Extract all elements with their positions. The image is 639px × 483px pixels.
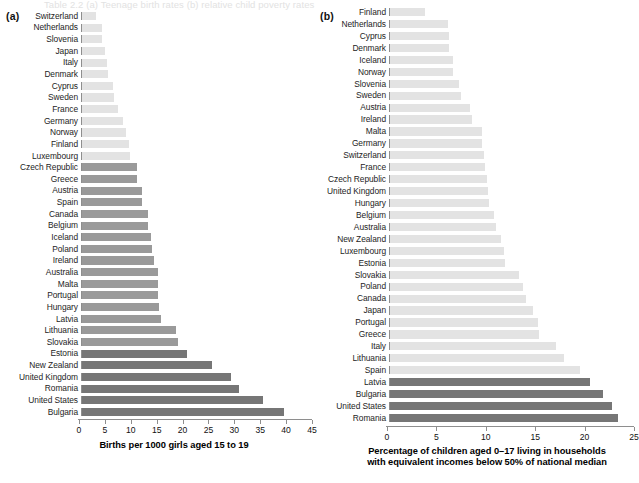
bar [82,373,231,381]
bar-row: Australia [318,223,634,231]
bar-row: Switzerland [0,12,312,20]
category-label: Germany [0,117,81,125]
x-axis: 051015202530354045 [0,419,312,435]
bar-row: France [318,163,634,171]
axis-tick-label: 25 [629,432,639,442]
axis-tick-label: 15 [530,432,540,442]
bar [390,354,564,362]
bar-track [81,47,313,55]
bar [82,256,155,264]
bar-row: Norway [318,68,634,76]
bar [82,350,187,358]
bar-track [81,338,313,346]
bar-track [389,378,635,386]
category-label: Slovenia [318,80,389,88]
axis-tick [105,420,106,424]
category-label: Canada [0,210,81,218]
category-label: Hungary [0,303,81,311]
bar [390,211,495,219]
bar-row: Lithuania [318,354,634,362]
bar-track [81,128,313,136]
bar [390,151,485,159]
bar-track [81,70,313,78]
axis-tick [436,427,437,431]
bar-track [81,24,313,32]
bar-track [389,8,635,16]
bar-track [81,152,313,160]
bar-row: Slovakia [318,271,634,279]
bar-row: Portugal [0,291,312,299]
bar [82,268,158,276]
bar-track [81,385,313,393]
bar-track [389,175,635,183]
axis-tick-label: 10 [126,425,136,435]
bar-track [81,105,313,113]
axis-tick [535,427,536,431]
bar [82,128,126,136]
bar-row: Italy [318,342,634,350]
category-label: Belgium [318,211,389,219]
bar-track [81,268,313,276]
bar-track [389,139,635,147]
category-label: Czech Republic [318,175,389,183]
bar-row: Poland [0,245,312,253]
category-label: Netherlands [318,20,389,28]
bar [390,306,534,314]
x-axis: 0510152025 [318,426,634,442]
bar [82,198,143,206]
bar-track [81,187,313,195]
bar [390,366,581,374]
category-label: Luxembourg [0,152,81,160]
bar [390,68,454,76]
bar [390,104,470,112]
bar-track [389,247,635,255]
bar-row: Slovenia [0,35,312,43]
bar-track [389,330,635,338]
bar [82,291,159,299]
bar-row: Denmark [318,44,634,52]
bar-track [389,32,635,40]
panel-b-axis-title: Percentage of children aged 0–17 living … [340,446,634,469]
bar-track [81,59,313,67]
category-label: United States [318,402,389,410]
bar [390,390,603,398]
bar-track [389,104,635,112]
bar-track [389,199,635,207]
bar-row: Germany [318,139,634,147]
category-label: France [0,105,81,113]
bar-track [81,82,313,90]
bar-row: Slovakia [0,338,312,346]
bar-track [81,350,313,358]
axis-line: 051015202530354045 [78,419,312,420]
bar-row: Iceland [0,233,312,241]
category-label: Ireland [0,256,81,264]
category-label: Austria [318,103,389,111]
bar-track [389,151,635,159]
bar [82,152,130,160]
bar-track [389,390,635,398]
category-label: Portugal [0,291,81,299]
category-label: Lithuania [0,326,81,334]
category-label: Ireland [318,115,389,123]
bar-track [81,280,313,288]
bar-row: Poland [318,283,634,291]
bar [82,385,240,393]
axis-tick-label: 20 [580,432,590,442]
bar-row: New Zealand [318,235,634,243]
category-label: Malta [0,280,81,288]
bar-row: Luxembourg [318,247,634,255]
bar-track [389,342,635,350]
bar-track [81,163,313,171]
bar [82,175,138,183]
bar-row: Belgium [318,211,634,219]
bar-row: Finland [0,140,312,148]
bar [82,163,137,171]
bar-track [389,92,635,100]
bar [390,271,519,279]
category-label: Australia [0,268,81,276]
bar [390,187,489,195]
bar-track [81,315,313,323]
axis-tick [634,427,635,431]
category-label: Norway [0,128,81,136]
